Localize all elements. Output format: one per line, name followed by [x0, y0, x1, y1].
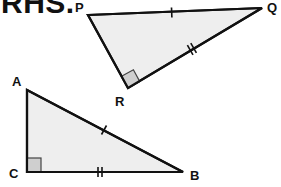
vertex-label-q: Q: [267, 0, 277, 15]
triangle-pqr: P Q R: [75, 0, 277, 109]
right-angle-marker-c: [27, 158, 41, 172]
vertex-label-r: R: [115, 94, 125, 109]
triangle-pqr-shape: [88, 8, 262, 88]
vertex-label-p: P: [75, 0, 84, 15]
vertex-label-b: B: [190, 168, 199, 183]
vertex-label-c: C: [9, 166, 19, 181]
vertex-label-a: A: [12, 74, 22, 89]
triangle-abc: A C B: [9, 74, 199, 183]
